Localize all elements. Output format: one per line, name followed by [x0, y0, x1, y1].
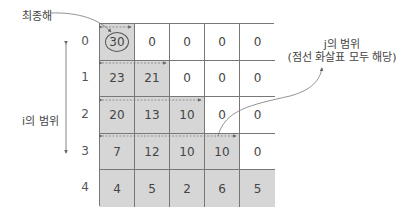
table-cell-0-0: 30 — [100, 24, 135, 61]
row-index-1: 1 — [78, 70, 92, 84]
table-cell-3-0: 7 — [100, 134, 135, 171]
table-cell-1-4: 0 — [240, 61, 275, 98]
table-cell-2-1: 13 — [135, 97, 170, 134]
table-cell-4-1: 5 — [135, 170, 170, 207]
j-range-label-line2: (점선 화살표 모두 해당) — [286, 51, 398, 64]
table-cell-3-1: 12 — [135, 134, 170, 171]
table-cell-4-2: 2 — [170, 170, 205, 207]
dp-table: 30 0 0 0 0 23 21 0 0 0 20 13 10 0 0 7 12… — [99, 23, 274, 206]
table-cell-2-0: 20 — [100, 97, 135, 134]
table-cell-0-1: 0 — [135, 24, 170, 61]
table-cell-3-2: 10 — [170, 134, 205, 171]
row-index-0: 0 — [78, 34, 92, 48]
table-cell-1-3: 0 — [205, 61, 240, 98]
final-solution-label: 최종해 — [22, 7, 52, 23]
table-cell-0-2: 0 — [170, 24, 205, 61]
i-range-label: i의 범위 — [22, 112, 59, 128]
table-cell-4-0: 4 — [100, 170, 135, 207]
circled-final-value: 30 — [105, 32, 129, 52]
table-cell-3-4: 0 — [240, 134, 275, 171]
j-range-label: j의 범위 (점선 화살표 모두 해당) — [286, 38, 398, 64]
row-index-4: 4 — [78, 180, 92, 194]
table-cell-4-4: 5 — [240, 170, 275, 207]
table-cell-4-3: 6 — [205, 170, 240, 207]
table-cell-1-2: 0 — [170, 61, 205, 98]
table-cell-3-3: 10 — [205, 134, 240, 171]
table-cell-2-4: 0 — [240, 97, 275, 134]
table-cell-2-2: 10 — [170, 97, 205, 134]
table-cell-2-3: 0 — [205, 97, 240, 134]
table-cell-0-3: 0 — [205, 24, 240, 61]
table-cell-1-1: 21 — [135, 61, 170, 98]
row-index-3: 3 — [78, 144, 92, 158]
table-cell-1-0: 23 — [100, 61, 135, 98]
table-cell-0-4: 0 — [240, 24, 275, 61]
row-index-2: 2 — [78, 107, 92, 121]
j-range-label-line1: j의 범위 — [286, 38, 398, 51]
